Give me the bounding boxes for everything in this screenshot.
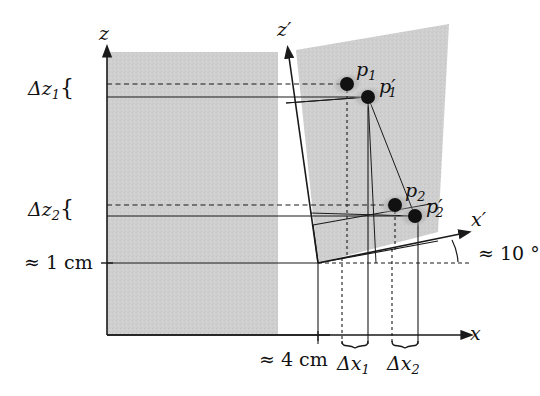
point-label-p1-prime: p′1 xyxy=(379,75,397,100)
point-label-p1: p1 xyxy=(356,58,376,83)
measure-delta-z2: Δz2{ xyxy=(28,196,74,223)
brace-delta-x2 xyxy=(392,341,418,348)
measure-delta-z1-sub: 1 xyxy=(52,87,60,102)
point-label-p2-base: p xyxy=(405,179,417,201)
measure-delta-z2-brace: { xyxy=(60,196,74,221)
axis-label-x-prime: x′ xyxy=(471,208,486,230)
point-label-p2-prime: p′2 xyxy=(426,195,444,220)
measure-delta-z2-text: Δz xyxy=(28,198,52,220)
measure-delta-x1-sub: 1 xyxy=(361,362,369,377)
measure-delta-x2: Δx2 xyxy=(387,352,420,377)
measure-angle-10deg: ≈ 10 ° xyxy=(478,242,540,264)
unrotated-slab xyxy=(107,52,278,335)
measure-delta-x2-sub: 2 xyxy=(411,362,419,377)
axis-label-x: x xyxy=(470,322,481,344)
point-label-p1-base: p xyxy=(356,58,368,80)
measure-width-4cm: ≈ 4 cm xyxy=(259,348,328,370)
measure-delta-x1-text: Δx xyxy=(337,352,361,374)
point-label-p2-sub: 2 xyxy=(417,189,425,204)
measure-delta-x1: Δx1 xyxy=(337,352,370,377)
axis-label-z-prime: z′ xyxy=(277,18,291,40)
measure-delta-z1-text: Δz xyxy=(28,77,52,99)
point-label-p1-sub: 1 xyxy=(368,68,376,83)
point-label-p2p-sub: 2 xyxy=(436,205,444,220)
measure-delta-z1-brace: { xyxy=(60,75,74,100)
angle-arc xyxy=(452,240,458,262)
point-label-p2: p2 xyxy=(405,179,425,204)
measure-height-1cm: ≈ 1 cm xyxy=(24,251,93,273)
point-label-p1p-sub: 1 xyxy=(389,85,397,100)
measure-delta-z1: Δz1{ xyxy=(28,75,74,102)
measure-delta-z2-sub: 2 xyxy=(52,208,60,223)
axis-label-z: z xyxy=(99,22,109,44)
measure-delta-x2-text: Δx xyxy=(387,352,411,374)
